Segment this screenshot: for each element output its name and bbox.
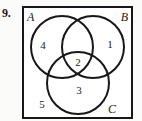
venn-diagram-figure: 9. A B C 4 1 2 3 5: [0, 0, 142, 121]
region-label-c-only: 3: [76, 84, 82, 96]
region-label-b-only: 1: [107, 38, 113, 50]
set-a-label: A: [26, 10, 35, 24]
set-c-label: C: [108, 102, 117, 116]
venn-diagram-graphic: A B C 4 1 2 3 5: [0, 0, 142, 121]
region-label-a-only: 4: [40, 39, 46, 51]
region-label-outside: 5: [39, 98, 45, 110]
set-b-label: B: [121, 10, 129, 24]
region-label-abc: 2: [75, 56, 81, 68]
